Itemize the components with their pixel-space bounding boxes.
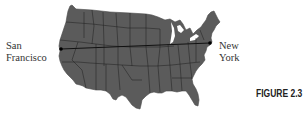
new-york-label-line1: New — [219, 40, 240, 52]
new-york-marker — [208, 41, 212, 45]
san-francisco-marker — [59, 47, 63, 51]
san-francisco-label: San Francisco — [6, 40, 47, 63]
new-york-label: New York — [219, 40, 240, 63]
figure-caption: FIGURE 2.3 — [256, 88, 302, 99]
san-francisco-label-line1: San — [6, 40, 47, 52]
san-francisco-label-line2: Francisco — [6, 52, 47, 64]
new-york-label-line2: York — [219, 52, 240, 64]
